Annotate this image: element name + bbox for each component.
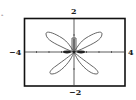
upper-right-lobe [74, 32, 102, 52]
upper-left-lobe [46, 32, 74, 52]
lower-right-lobe [74, 52, 98, 74]
lower-left-lobe [50, 52, 74, 74]
plot-area [0, 0, 136, 100]
inner-horizontal-loops [63, 51, 85, 54]
